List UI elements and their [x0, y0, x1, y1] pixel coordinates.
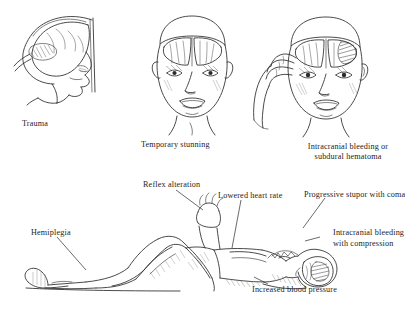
- leader-progressive-stupor: [303, 198, 325, 228]
- label-intracranial-compression-line2: with compression: [333, 239, 393, 250]
- label-progressive-stupor: Progressive stupor with coma: [304, 190, 405, 201]
- label-hemiplegia: Hemiplegia: [31, 228, 71, 239]
- panel-temporary-stunning-art: [152, 16, 233, 135]
- leader-lowered-heart-rate: [232, 200, 241, 248]
- leader-increased-blood-pressure: [254, 277, 268, 284]
- leader-hemiplegia: [57, 237, 86, 270]
- panel-intracranial-art: [254, 17, 368, 137]
- panel-trauma-art: [14, 16, 95, 105]
- label-increased-blood-pressure: Increased blood pressure: [252, 285, 337, 296]
- leader-reflex-alteration: [176, 190, 203, 210]
- label-lowered-heart-rate: Lowered heart rate: [218, 191, 283, 202]
- caption-intracranial-line2: subdural hematoma: [283, 152, 413, 163]
- leader-intracranial-compression: [305, 237, 320, 241]
- caption-temporary-stunning: Temporary stunning: [141, 140, 210, 151]
- label-intracranial-compression-line1: Intracranial bleeding: [333, 228, 404, 239]
- panel-supine-patient-art: [25, 190, 337, 291]
- caption-intracranial-line1: Intracranial bleeding or: [283, 142, 413, 153]
- caption-trauma: Trauma: [22, 119, 48, 130]
- label-reflex-alteration: Reflex alteration: [143, 180, 200, 191]
